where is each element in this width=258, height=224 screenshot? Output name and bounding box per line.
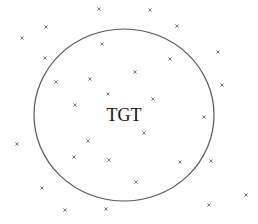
x-mark (63, 208, 66, 211)
diagram-canvas: TGT (0, 0, 258, 224)
x-mark (73, 103, 76, 106)
x-mark (72, 155, 75, 158)
x-mark (220, 83, 223, 86)
x-mark (178, 160, 181, 163)
x-mark (148, 8, 151, 11)
x-mark (168, 57, 171, 60)
target-label: TGT (107, 105, 142, 125)
x-mark (244, 193, 247, 196)
x-mark (43, 56, 46, 59)
x-mark (40, 186, 43, 189)
x-mark (209, 159, 212, 162)
x-mark (133, 70, 136, 73)
x-mark (216, 50, 219, 53)
x-mark (107, 158, 110, 161)
x-mark (175, 24, 178, 27)
x-mark (207, 203, 210, 206)
x-mark (202, 115, 205, 118)
x-mark (142, 131, 145, 134)
x-mark (97, 7, 100, 10)
x-mark (15, 142, 18, 145)
x-mark (20, 36, 23, 39)
x-mark (44, 25, 47, 28)
x-mark (106, 92, 109, 95)
x-mark (151, 97, 154, 100)
x-mark (104, 207, 107, 210)
target-diagram: TGT (0, 0, 258, 224)
x-mark (54, 80, 57, 83)
x-mark (88, 77, 91, 80)
x-mark (86, 139, 89, 142)
x-mark (134, 180, 137, 183)
x-mark (100, 42, 103, 45)
